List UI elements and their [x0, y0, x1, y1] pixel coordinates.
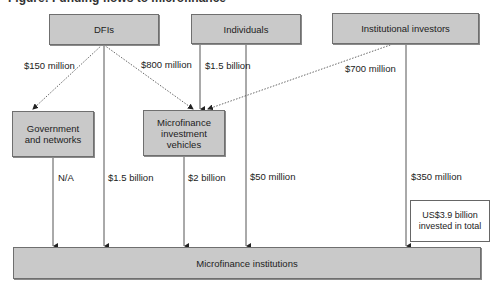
total-note-box: US$3.9 billion invested in total: [410, 200, 490, 242]
flow-label-individuals-miv: $1.5 billion: [205, 60, 250, 71]
flow-label-dfis-mfi: $1.5 billion: [108, 172, 153, 183]
figure-title: Figure: Funding flows to microfinance: [8, 0, 226, 5]
flow-label-dfis-government: $150 million: [24, 60, 75, 71]
flow-label-dfis-miv: $800 million: [141, 59, 192, 70]
flow-label-institutional-miv: $700 million: [345, 63, 396, 74]
flow-label-government-mfi: N/A: [58, 172, 74, 183]
microfinance-institutions-bar: Microfinance institutions: [13, 247, 481, 279]
institutional-investors-box: Institutional investors: [332, 13, 479, 44]
government-networks-box: Government and networks: [12, 111, 94, 157]
flow-label-individuals-mfi: $50 million: [250, 171, 295, 182]
miv-box: Microfinance investment vehicles: [143, 110, 225, 156]
flow-label-institutional-mfi: $350 million: [411, 171, 462, 182]
dfis-box: DFIs: [49, 14, 159, 45]
individuals-box: Individuals: [191, 14, 301, 44]
flow-label-miv-mfi: $2 billion: [188, 172, 226, 183]
